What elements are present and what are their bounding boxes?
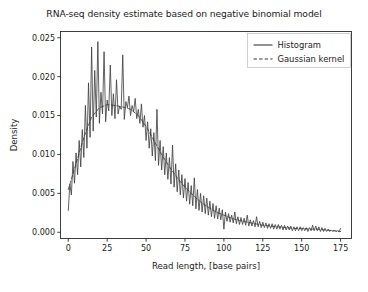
legend-label-gaussian-kernel: Gaussian kernel <box>278 54 345 64</box>
y-tick-label: 0.020 <box>32 73 55 82</box>
data-series-group <box>68 42 340 232</box>
x-tick-label: 150 <box>294 244 309 253</box>
y-axis-ticks: 0.0000.0050.0100.0150.0200.025 <box>32 34 60 238</box>
x-tick-label: 100 <box>216 244 231 253</box>
x-tick-label: 25 <box>102 244 112 253</box>
x-tick-label: 125 <box>255 244 270 253</box>
x-tick-label: 0 <box>66 244 71 253</box>
x-axis-title: Read length, [base pairs] <box>152 261 260 271</box>
x-tick-label: 50 <box>141 244 151 253</box>
series-line-histogram <box>68 42 340 232</box>
x-tick-label: 175 <box>333 244 348 253</box>
y-tick-label: 0.000 <box>32 228 55 237</box>
y-tick-label: 0.010 <box>32 150 55 159</box>
series-line-gaussian-kernel <box>68 105 340 232</box>
y-tick-label: 0.025 <box>32 34 55 43</box>
figure-canvas: RNA-seq density estimate based on negati… <box>0 0 368 292</box>
y-axis-title: Density <box>9 119 19 152</box>
chart-plot: 0.0000.0050.0100.0150.0200.025 025507510… <box>0 0 368 292</box>
x-axis-ticks: 0255075100125150175 <box>66 239 349 254</box>
x-tick-label: 75 <box>180 244 190 253</box>
y-tick-label: 0.005 <box>32 189 55 198</box>
y-tick-label: 0.015 <box>32 111 55 120</box>
chart-legend: HistogramGaussian kernel <box>248 34 351 68</box>
legend-label-histogram: Histogram <box>278 40 321 50</box>
